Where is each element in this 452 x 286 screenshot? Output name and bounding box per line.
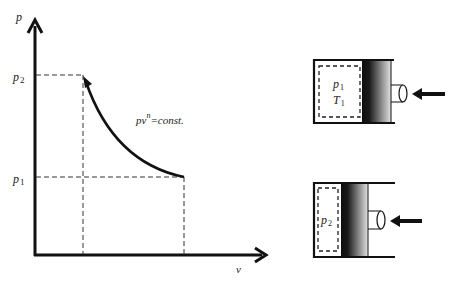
svg-text:T1: T1 [333,93,345,108]
x-axis-label: v [236,263,241,275]
svg-text:p1: p1 [332,77,344,92]
cylinder-initial: p1 T1 [314,60,445,123]
equation-prefix: pv [135,114,147,126]
svg-text:v: v [236,263,241,275]
t1-state-subscript: 1 [341,99,345,108]
process-direction-arrow-icon [83,76,92,88]
p2-label: p [12,70,19,84]
force-arrow-icon [412,88,422,100]
p1-state-subscript: 1 [340,83,344,92]
p2-subscript: 2 [20,75,25,85]
svg-text:p2: p2 [12,70,25,85]
pv-chart: p v p2 p1 pvn=const. [12,10,266,275]
p2-state-label: p [320,213,327,227]
piston [341,184,368,256]
y-axis-label: p [15,10,22,24]
force-arrow-icon [390,215,400,227]
piston [362,61,391,122]
svg-text:pvn=const.: pvn=const. [135,111,184,126]
p1-label: p [12,172,19,186]
p1-subscript: 1 [20,177,25,187]
svg-text:p2: p2 [320,213,332,228]
equation-suffix: =const. [150,114,183,126]
svg-text:p: p [15,10,22,24]
cylinder-compressed: p2 [314,183,422,257]
svg-text:p1: p1 [12,172,25,187]
p2-state-subscript: 2 [328,219,332,228]
p1-state-label: p [332,77,339,91]
pv-diagram-canvas: p v p2 p1 pvn=const. p1 T1 p2 [0,0,452,286]
process-curve [86,82,184,177]
